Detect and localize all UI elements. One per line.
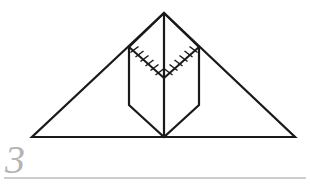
- geometry-diagram: [0, 0, 310, 189]
- canvas-background: [0, 0, 310, 189]
- figure-number-label: 3: [5, 140, 25, 180]
- figure-canvas: 3: [0, 0, 310, 189]
